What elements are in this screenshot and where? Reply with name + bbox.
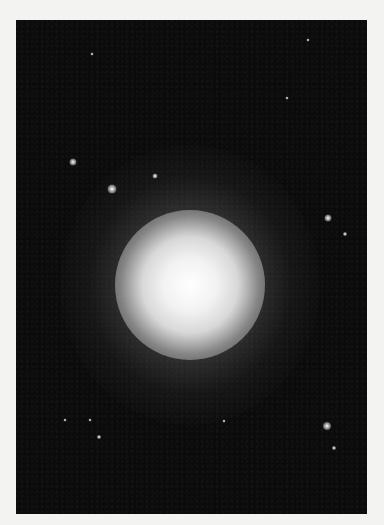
star — [343, 232, 347, 236]
star — [307, 39, 310, 42]
galaxy-core — [115, 210, 265, 360]
star — [153, 174, 158, 179]
star — [286, 97, 289, 100]
star — [108, 185, 117, 194]
star — [89, 419, 92, 422]
star — [323, 422, 331, 430]
star — [64, 419, 67, 422]
star — [70, 159, 77, 166]
star — [97, 435, 101, 439]
star — [325, 215, 332, 222]
star — [91, 53, 94, 56]
galaxy-photo — [16, 20, 367, 514]
star — [223, 420, 226, 423]
star — [332, 446, 336, 450]
